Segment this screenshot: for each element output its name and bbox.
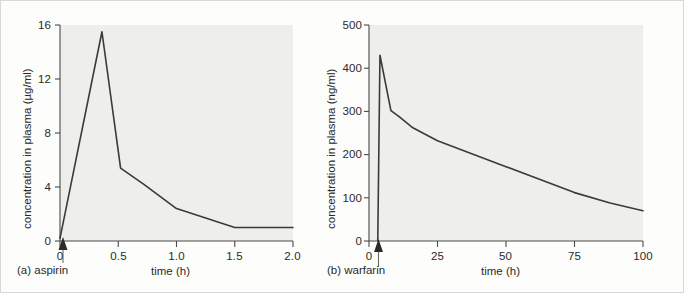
warfarin-xtick-label-0: 0 bbox=[357, 250, 381, 262]
aspirin-ytick-label-0: 0 bbox=[27, 235, 51, 247]
aspirin-y-axis-title: concentration in plasma (µg/ml) bbox=[21, 68, 33, 229]
warfarin-xtick-label-25: 25 bbox=[424, 250, 451, 262]
warfarin-ytick-label-0: 0 bbox=[330, 235, 362, 247]
warfarin-panel-caption: (b) warfarin bbox=[327, 264, 385, 276]
warfarin-xtick-label-75: 75 bbox=[561, 250, 588, 262]
aspirin-ytick-label-16: 16 bbox=[27, 19, 51, 31]
warfarin-xtick-label-50: 50 bbox=[492, 250, 519, 262]
aspirin-xtick-label-0: 0 bbox=[48, 250, 72, 262]
warfarin-x-axis-title: time (h) bbox=[481, 265, 520, 277]
warfarin-plot-area bbox=[369, 25, 643, 241]
aspirin-x-axis-title: time (h) bbox=[151, 265, 190, 277]
figure-container: 16 12 8 4 0 0 0.5 1.0 1.5 2.0 concentrat… bbox=[0, 0, 684, 293]
aspirin-xtick-label-1-5: 1.5 bbox=[220, 250, 249, 262]
aspirin-xtick-label-0-5: 0.5 bbox=[104, 250, 133, 262]
warfarin-ytick-label-500: 500 bbox=[330, 19, 362, 31]
warfarin-xtick-label-100: 100 bbox=[627, 250, 659, 262]
chart-panel-aspirin: 16 12 8 4 0 0 0.5 1.0 1.5 2.0 concentrat… bbox=[1, 1, 331, 293]
aspirin-xtick-label-2-0: 2.0 bbox=[278, 250, 307, 262]
aspirin-xtick-label-1-0: 1.0 bbox=[162, 250, 191, 262]
warfarin-y-axis-title: concentration in plasma (ng/ml) bbox=[325, 69, 337, 229]
chart-panel-warfarin: 500 400 300 200 100 0 0 25 50 75 100 con… bbox=[331, 1, 684, 293]
aspirin-panel-caption: (a) aspirin bbox=[17, 264, 68, 276]
